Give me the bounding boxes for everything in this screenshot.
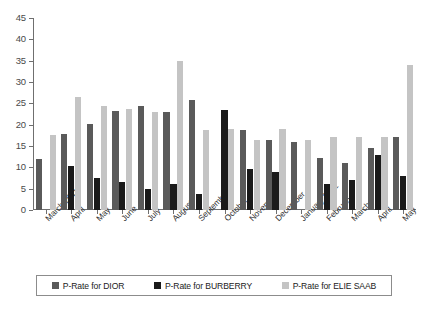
y-axis-tick-mark [29,210,33,211]
bar [375,155,381,210]
bar [247,169,253,210]
bar [152,112,158,210]
bar [61,134,67,210]
bar-group [288,18,314,210]
y-axis-tick-label: 0 [21,204,26,215]
bar [119,182,125,210]
bar-group [135,18,161,210]
bar [203,130,209,210]
bar-group [84,18,110,210]
bar [356,137,362,210]
bar-group [339,18,365,210]
bar [196,194,202,210]
bar-group [237,18,263,210]
y-axis-tick-label: 25 [16,97,26,108]
y-axis-tick-label: 45 [16,12,26,23]
bar-group [314,18,340,210]
bar-group [186,18,212,210]
y-axis-tick-label: 20 [16,119,26,130]
bar [94,178,100,210]
bar [177,61,183,210]
chart-legend: P-Rate for DIORP-Rate for BURBERRYP-Rate… [36,275,392,296]
bar-group [110,18,136,210]
bar-group [365,18,391,210]
bar [349,180,355,210]
legend-item-label: P-Rate for BURBERRY [165,281,252,291]
legend-swatch-icon [154,282,161,289]
bar [189,100,195,210]
y-axis-tick-label: 5 [21,183,26,194]
bar-group [33,18,59,210]
bar [317,158,323,210]
bar [50,135,56,210]
bar-chart: 051015202530354045 March 2011AprilMayJun… [0,0,426,311]
bar [138,106,144,210]
bar [170,184,176,210]
bar [221,110,227,210]
legend-item-label: P-Rate for DIOR [63,281,125,291]
bar-group [161,18,187,210]
legend-item[interactable]: P-Rate for BURBERRY [154,281,252,291]
legend-item-label: P-Rate for ELIE SAAB [293,281,377,291]
y-axis-tick-label: 35 [16,55,26,66]
bar [87,124,93,210]
bar [342,163,348,210]
legend-item[interactable]: P-Rate for DIOR [52,281,125,291]
bar-group [390,18,416,210]
bar [368,148,374,210]
bar-group [212,18,238,210]
y-axis-tick-label: 30 [16,76,26,87]
bar [36,159,42,210]
bar [101,106,107,210]
bar [126,109,132,210]
bar [163,112,169,210]
bar [393,137,399,210]
bar [279,129,285,210]
bar [68,166,74,210]
bar-group [263,18,289,210]
bar [145,189,151,210]
bar-group [59,18,85,210]
bar [266,140,272,210]
legend-item[interactable]: P-Rate for ELIE SAAB [282,281,377,291]
bar [112,111,118,210]
bar [324,184,330,210]
bar [240,130,246,210]
y-axis-tick-label: 10 [16,161,26,172]
bar [330,137,336,210]
bar [400,176,406,210]
bar [272,172,278,210]
bar [305,140,311,210]
bar [75,97,81,210]
bar [381,137,387,210]
bar [254,140,260,210]
bar [228,129,234,210]
y-axis-tick-label: 40 [16,33,26,44]
plot-area [33,18,416,210]
y-axis-tick-label: 15 [16,140,26,151]
legend-swatch-icon [282,282,289,289]
bar [291,142,297,210]
bar [407,65,413,210]
legend-swatch-icon [52,282,59,289]
